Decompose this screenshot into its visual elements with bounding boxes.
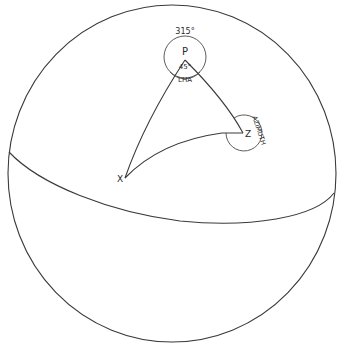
side-px-line xyxy=(125,60,185,178)
angle-circle-p xyxy=(164,36,206,78)
diagram-canvas: 315° P 45° LHA Z X AZIMUTH xyxy=(0,0,353,348)
zenith-label: Z xyxy=(245,129,251,139)
side-pz-line xyxy=(185,60,243,133)
azimuth-label: AZIMUTH xyxy=(250,115,267,146)
body-label: X xyxy=(117,174,123,184)
side-xz-line xyxy=(125,133,243,178)
outer-angle-label: 315° xyxy=(175,27,194,36)
equator-line xyxy=(9,152,334,223)
lha-label: LHA xyxy=(178,76,192,84)
lha-value-label: 45° xyxy=(179,63,191,71)
sphere-outline xyxy=(8,5,336,342)
pole-label: P xyxy=(182,46,188,57)
celestial-sphere-diagram: 315° P 45° LHA Z X AZIMUTH xyxy=(0,0,353,348)
